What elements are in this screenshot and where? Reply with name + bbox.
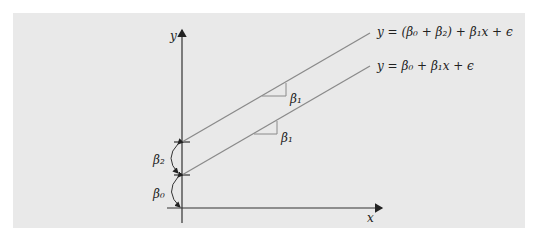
- slope-label-lower: β₁: [280, 131, 293, 145]
- regression-diagram: y x β₂ β₀ β₁ β₁ y = (β₀ + β₂) + β₁x + ϵ …: [0, 0, 536, 245]
- shifted-line-equation: y = (β₀ + β₂) + β₁x + ϵ: [376, 25, 513, 39]
- y-axis-label: y: [169, 29, 177, 43]
- intercept-label: β₀: [152, 187, 165, 201]
- offset-label: β₂: [152, 153, 165, 167]
- offset-arc: [171, 144, 178, 173]
- base-regression-line: [182, 66, 370, 175]
- slope-label-upper: β₁: [289, 92, 302, 106]
- slope-triangle-lower: [254, 121, 277, 134]
- intercept-arc: [171, 177, 180, 207]
- shifted-regression-line: [182, 33, 370, 142]
- x-axis-label: x: [367, 211, 374, 225]
- base-line-equation: y = β₀ + β₁x + ϵ: [376, 59, 474, 73]
